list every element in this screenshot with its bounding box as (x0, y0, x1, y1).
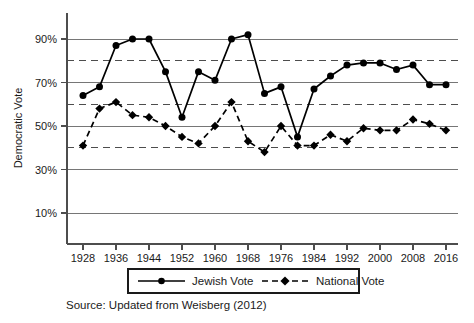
legend-marker-circle-icon (158, 278, 165, 285)
data-point-circle (393, 66, 400, 73)
data-point-circle (294, 133, 301, 140)
data-point-circle (360, 59, 367, 66)
x-tick-label-1952: 1952 (170, 252, 194, 264)
chart-figure: 90% 70% 50% 30% 10% Democratic Vote 1928 (0, 0, 474, 323)
legend-label-national-vote: National Vote (316, 275, 384, 287)
x-tick-label-1968: 1968 (236, 252, 260, 264)
x-tick-label-1984: 1984 (302, 252, 326, 264)
data-point-circle (278, 83, 285, 90)
data-point-circle (426, 81, 433, 88)
data-point-circle (344, 62, 351, 69)
chart-legend: Jewish Vote National Vote (128, 269, 384, 293)
x-tick-label-1936: 1936 (104, 252, 128, 264)
data-point-circle (228, 36, 235, 43)
data-point-circle (162, 68, 169, 75)
x-tick-label-2016: 2016 (434, 252, 458, 264)
x-tick-label-1960: 1960 (203, 252, 227, 264)
y-tick-label-90: 90% (35, 33, 57, 45)
y-tick-label-50: 50% (35, 120, 57, 132)
data-point-circle (261, 90, 268, 97)
data-point-circle (195, 68, 202, 75)
x-tick-label-1944: 1944 (137, 252, 161, 264)
data-point-circle (410, 62, 417, 69)
data-point-circle (212, 77, 219, 84)
y-tick-label-30: 30% (35, 164, 57, 176)
data-point-circle (146, 36, 153, 43)
x-tick-label-1976: 1976 (269, 252, 293, 264)
x-tick-label-1992: 1992 (335, 252, 359, 264)
x-tick-label-1928: 1928 (71, 252, 95, 264)
y-tick-label-70: 70% (35, 77, 57, 89)
y-tick-label-10: 10% (35, 207, 57, 219)
data-point-circle (327, 72, 334, 79)
data-point-circle (80, 92, 87, 99)
data-point-circle (113, 42, 120, 49)
x-tick-label-2000: 2000 (368, 252, 392, 264)
democratic-vote-line-chart: 90% 70% 50% 30% 10% Democratic Vote 1928 (0, 0, 474, 323)
legend-label-jewish-vote: Jewish Vote (192, 275, 253, 287)
x-tick-label-2008: 2008 (401, 252, 425, 264)
source-note: Source: Updated from Weisberg (2012) (66, 299, 267, 311)
data-point-circle (245, 31, 252, 38)
data-point-circle (129, 36, 136, 43)
data-point-circle (377, 59, 384, 66)
data-point-circle (179, 114, 186, 121)
data-point-circle (96, 83, 103, 90)
data-point-circle (443, 81, 450, 88)
y-axis-title: Democratic Vote (12, 88, 24, 169)
data-point-circle (311, 86, 318, 93)
